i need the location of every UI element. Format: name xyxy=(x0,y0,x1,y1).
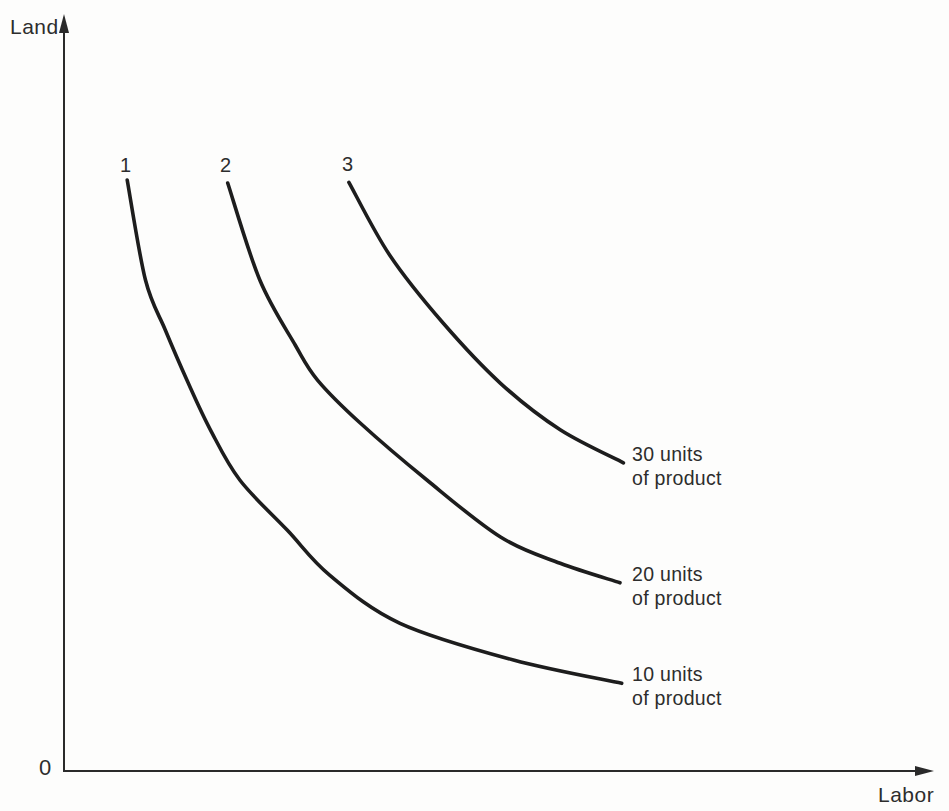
isoquant-curve-3 xyxy=(349,182,624,463)
curve-1-number-label: 1 xyxy=(120,154,131,177)
axes-lines xyxy=(64,26,918,771)
curve-1-product-label-line2: of product xyxy=(632,686,722,710)
isoquant-curve-2 xyxy=(228,183,620,583)
curve-2-product-label-line2: of product xyxy=(632,586,722,610)
curve-2-product-label: 20 units of product xyxy=(632,562,722,610)
curve-3-product-label: 30 units of product xyxy=(632,442,722,490)
curve-1-product-label: 10 units of product xyxy=(632,662,722,710)
curve-1-product-label-line1: 10 units xyxy=(632,662,722,686)
curve-2-number-label: 2 xyxy=(220,154,231,177)
curve-3-product-label-line2: of product xyxy=(632,466,722,490)
y-axis-label: Land xyxy=(10,15,59,39)
x-axis-arrowhead xyxy=(915,766,934,776)
figure-canvas: Land Labor 0 1 2 3 30 units of product 2… xyxy=(0,0,949,811)
y-axis-arrowhead xyxy=(59,14,69,33)
x-axis-label: Labor xyxy=(878,783,934,807)
curve-2-product-label-line1: 20 units xyxy=(632,562,722,586)
origin-label: 0 xyxy=(39,755,51,781)
isoquant-plot-svg xyxy=(0,0,949,811)
curve-3-product-label-line1: 30 units xyxy=(632,442,722,466)
curve-3-number-label: 3 xyxy=(342,153,353,176)
isoquant-curve-1 xyxy=(127,180,622,683)
